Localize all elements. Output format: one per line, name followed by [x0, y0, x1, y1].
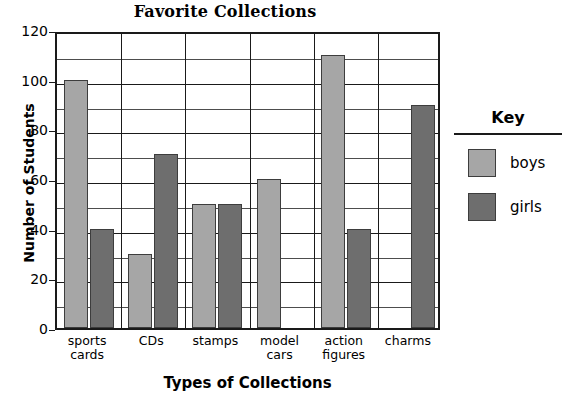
y-tick-label-40: 40 — [8, 222, 48, 238]
x-tick-label-line: action — [312, 334, 376, 348]
x-tick-label-line: model — [248, 334, 312, 348]
bar-stamps-boys — [192, 204, 216, 328]
legend-title: Key — [452, 108, 564, 127]
x-tick-label-line: figures — [312, 348, 376, 362]
legend-label-girls: girls — [510, 198, 542, 216]
x-tick-label-line: sports — [55, 334, 119, 348]
x-tick-label-sports-cards: sportscards — [55, 334, 119, 362]
y-tick-mark-0 — [49, 330, 55, 331]
gridline-70 — [57, 158, 438, 159]
legend-swatch-boys — [468, 149, 496, 177]
y-tick-label-20: 20 — [8, 271, 48, 287]
category-divider-4 — [314, 34, 315, 328]
x-tick-label-line: cards — [55, 348, 119, 362]
legend-rows: boysgirls — [452, 149, 564, 221]
y-tick-label-0: 0 — [8, 321, 48, 337]
legend: Key boysgirls — [452, 108, 564, 237]
bar-sports-cards-girls — [90, 229, 114, 328]
gridline-90 — [57, 109, 438, 110]
legend-divider — [454, 133, 562, 135]
bar-CDs-girls — [154, 154, 178, 328]
gridline-60 — [57, 183, 438, 184]
x-tick-label-action-figures: actionfigures — [312, 334, 376, 362]
gridline-50 — [57, 208, 438, 209]
x-axis-title: Types of Collections — [55, 374, 440, 392]
x-axis-category-labels: sportscardsCDsstampsmodelcarsactionfigur… — [55, 334, 440, 372]
legend-label-boys: boys — [510, 154, 545, 172]
x-tick-label-line: CDs — [119, 334, 183, 348]
y-tick-label-100: 100 — [8, 73, 48, 89]
x-tick-label-stamps: stamps — [183, 334, 247, 348]
y-tick-label-60: 60 — [8, 172, 48, 188]
x-tick-label-line: stamps — [183, 334, 247, 348]
y-tick-label-120: 120 — [8, 23, 48, 39]
chart-title: Favorite Collections — [0, 2, 450, 21]
plot-inner — [57, 34, 438, 328]
y-tick-label-80: 80 — [8, 122, 48, 138]
gridline-110 — [57, 59, 438, 60]
bar-action-figures-girls — [347, 229, 371, 328]
category-divider-1 — [121, 34, 122, 328]
bar-stamps-girls — [218, 204, 242, 328]
bar-charms-girls — [411, 105, 435, 329]
legend-item-girls: girls — [468, 193, 564, 221]
gridline-30 — [57, 258, 438, 259]
gridline-10 — [57, 307, 438, 308]
gridline-100 — [57, 84, 438, 85]
x-tick-label-model-cars: modelcars — [248, 334, 312, 362]
x-tick-label-line: cars — [248, 348, 312, 362]
bar-action-figures-boys — [321, 55, 345, 328]
plot-area — [55, 32, 440, 330]
x-tick-label-charms: charms — [376, 334, 440, 348]
x-tick-label-line: charms — [376, 334, 440, 348]
legend-swatch-girls — [468, 193, 496, 221]
legend-item-boys: boys — [468, 149, 564, 177]
gridline-80 — [57, 133, 438, 134]
x-tick-label-CDs: CDs — [119, 334, 183, 348]
category-divider-3 — [250, 34, 251, 328]
bar-CDs-boys — [128, 254, 152, 329]
bar-model-cars-boys — [257, 179, 281, 328]
category-divider-2 — [185, 34, 186, 328]
gridline-20 — [57, 282, 438, 283]
category-divider-5 — [378, 34, 379, 328]
gridline-40 — [57, 233, 438, 234]
bar-sports-cards-boys — [64, 80, 88, 328]
